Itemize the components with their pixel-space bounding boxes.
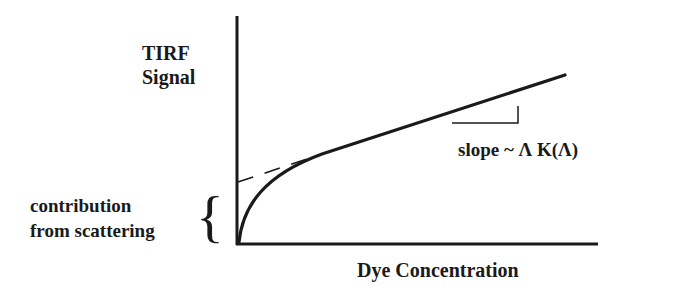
scatter-label-line2: from scattering (30, 220, 155, 241)
y-axis-label-line2: Signal (142, 66, 196, 89)
x-axis-label: Dye Concentration (357, 259, 519, 282)
y-axis-label-line1: TIRF (142, 42, 190, 64)
brace-icon: { (196, 184, 224, 249)
diagram-canvas: TIRF Signal slope ~ Λ K(Λ) contribution … (0, 0, 673, 294)
scatter-label-line1: contribution (30, 195, 132, 216)
slope-label: slope ~ Λ K(Λ) (458, 139, 578, 161)
